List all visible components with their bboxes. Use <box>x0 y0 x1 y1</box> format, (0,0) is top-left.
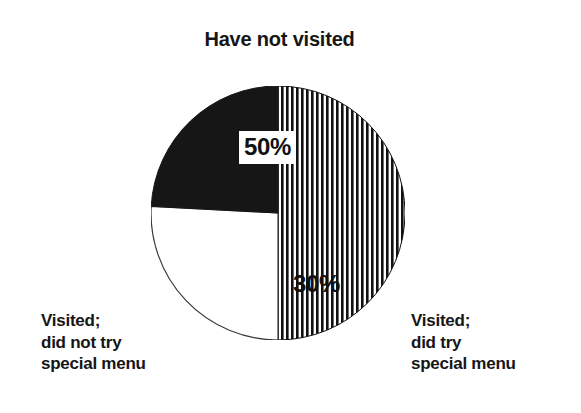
callout-visited-did-try: Visited; did try special menu <box>411 310 516 375</box>
slice-value-label-30: 30% <box>293 272 340 296</box>
slice-value-label-20: 20% <box>187 270 234 294</box>
callout-left-line-2: did not try <box>41 332 146 354</box>
pie-chart <box>151 86 405 340</box>
callout-left-line-1: Visited; <box>41 310 146 332</box>
chart-title: Have not visited <box>0 28 581 51</box>
pie-slice-have-not-visited <box>278 86 405 340</box>
callout-right-line-3: special menu <box>411 353 516 375</box>
callout-right-line-2: did try <box>411 332 516 354</box>
chart-title-text: Have not visited <box>204 28 354 51</box>
callout-left-line-3: special menu <box>41 353 146 375</box>
pie-chart-svg <box>151 86 405 340</box>
callout-right-line-1: Visited; <box>411 310 516 332</box>
pie-chart-figure: Have not visited 50% 20% 30% Visited; di… <box>0 0 581 413</box>
callout-visited-did-not-try: Visited; did not try special menu <box>41 310 146 375</box>
slice-value-label-50: 50% <box>239 131 296 164</box>
